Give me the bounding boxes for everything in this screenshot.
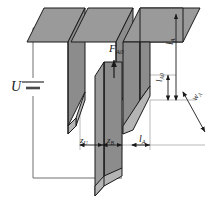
label-voltage: U <box>11 80 21 94</box>
movable-electrode <box>95 62 122 196</box>
diagram-canvas <box>0 0 212 204</box>
label-force: FA0 <box>109 43 123 54</box>
fixed-electrode-right <box>123 8 200 134</box>
fixed-electrode-left <box>27 8 85 134</box>
movable-electrode-face <box>104 62 122 186</box>
label-gap-u: zU <box>80 136 88 145</box>
movable-electrode-side <box>95 62 104 196</box>
label-length-a0: lA0 <box>155 73 164 82</box>
label-length-a-right: lA <box>165 38 175 45</box>
electrode-right-top-face-b <box>140 8 183 42</box>
label-gap-b: zB <box>107 136 114 145</box>
label-length-a-bottom: lA <box>139 134 146 144</box>
battery-symbol <box>22 82 44 88</box>
technical-diagram: U FA0 lA lA0 wA zU zB lA <box>0 0 212 204</box>
